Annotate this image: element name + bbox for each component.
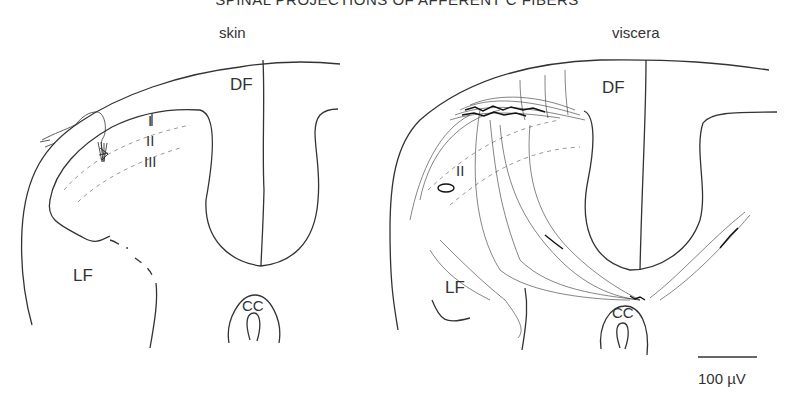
viscera-dorsal-horn xyxy=(584,111,777,270)
skin-lamina-boundary-1 xyxy=(64,125,190,190)
viscera-region-df: DF xyxy=(602,78,625,98)
viscera-region-lf: LF xyxy=(445,278,465,298)
skin-region-cc: CC xyxy=(242,297,264,314)
skin-lamina-boundary-2 xyxy=(78,148,180,202)
skin-lf-boundary xyxy=(110,240,128,248)
spinal-cord-diagram xyxy=(0,0,794,399)
skin-lf-lateral xyxy=(150,283,157,348)
skin-lf-dashed xyxy=(135,258,152,275)
skin-lamina-i: I xyxy=(148,112,152,129)
scale-bar-label: 100 µV xyxy=(698,370,746,387)
viscera-lf-lateral xyxy=(522,288,527,350)
skin-region-lf: LF xyxy=(73,266,93,286)
skin-lamina-ii: II xyxy=(146,132,154,149)
viscera-dense-arbors xyxy=(438,106,738,300)
skin-dorsal-horn-inner xyxy=(49,127,112,241)
skin-outer-boundary xyxy=(22,62,340,325)
viscera-df-septum xyxy=(640,60,646,270)
viscera-lamina-ii: II xyxy=(456,162,464,179)
skin-lamina-iii: III xyxy=(144,153,157,170)
skin-afferent-fiber xyxy=(42,112,105,155)
skin-cc-canal xyxy=(247,313,260,341)
viscera-region-cc: CC xyxy=(612,304,634,321)
viscera-lamina-boundary-2 xyxy=(450,147,580,205)
viscera-cc-canal xyxy=(617,323,628,349)
viscera-inner-loop xyxy=(432,300,470,321)
skin-df-septum xyxy=(261,60,264,266)
skin-region-df: DF xyxy=(230,75,253,95)
